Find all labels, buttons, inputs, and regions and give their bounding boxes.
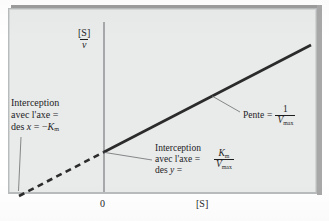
annotation-slope: Pente = 1 Vmax [243,105,295,126]
annotation-x-intercept-line1: Interception [11,97,59,109]
annotation-slope-equals: = [267,110,272,121]
annotation-x-intercept-line3: des x = −Km [11,121,59,133]
annotation-y-intercept-prefix: des [155,165,170,175]
leader-x-intercept [19,137,22,191]
leader-slope [212,96,240,112]
annotation-y-intercept-value-fraction: Km Vmax [214,149,234,170]
slope-vmax-subscript: max [283,120,293,126]
annotation-slope-denominator: Vmax [275,115,295,126]
annotation-y-intercept: Interception avec l'axe = des y = Km Vma… [155,143,234,177]
annotation-x-intercept-prefix: des [11,121,27,132]
km-symbol: K [218,148,224,158]
annotation-y-intercept-text: Interception avec l'axe = des y = [155,143,201,177]
annotation-slope-body: Pente = 1 Vmax [243,105,295,126]
annotation-x-intercept-equals: = − [31,121,47,132]
annotation-x-intercept-line2: avec l'axe = [11,109,59,121]
y-axis-label-numerator: [S] [76,28,92,39]
hanes-woolf-figure: [S] v 0 [S] Interception avec l'axe = de… [0,0,329,221]
data-line-solid [104,45,311,152]
x-axis-label: [S] [196,198,208,209]
y-axis-label-denominator: v [80,39,88,51]
leader-y-intercept [105,153,152,161]
x-axis-tick-zero: 0 [100,198,105,209]
km-subscript: m [225,153,230,159]
annotation-y-intercept-value-denominator: Vmax [214,159,234,170]
annotation-slope-label: Pente [243,110,264,121]
annotation-x-intercept-km-subscript: m [54,125,59,132]
data-line-dashed [19,152,104,196]
vmax-symbol: V [216,159,222,169]
vmax-subscript: max [222,164,232,170]
annotation-y-intercept-line3: des y = [155,165,201,176]
y-axis-label: [S] v [76,28,92,50]
y-axis-label-fraction: [S] v [76,28,92,50]
annotation-y-intercept-body: Interception avec l'axe = des y = Km Vma… [155,143,234,177]
annotation-slope-numerator: 1 [281,105,290,115]
annotation-y-intercept-line1: Interception [155,143,201,154]
annotation-x-intercept: Interception avec l'axe = des x = −Km [11,97,59,132]
annotation-y-intercept-equals: = [174,165,182,175]
annotation-y-intercept-line2: avec l'axe = [155,154,201,165]
annotation-y-intercept-value-numerator: Km [216,149,231,159]
annotation-slope-fraction: 1 Vmax [275,105,295,126]
